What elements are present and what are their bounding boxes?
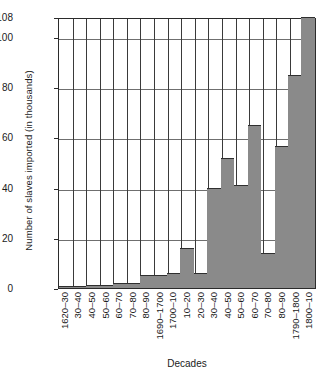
bar-70-80 (261, 253, 274, 288)
x-tick-label: 1690–1700 (155, 292, 165, 340)
x-axis-title: Decades (58, 358, 316, 369)
bar-cell (207, 19, 220, 288)
bar-cell (288, 19, 301, 288)
x-tick-label: 20–30 (196, 292, 206, 318)
x-tick-label: 40–50 (223, 292, 233, 318)
plot-area (58, 18, 316, 289)
bar-40-50 (86, 285, 99, 288)
bar-40-50 (221, 158, 234, 288)
bar-1790-1800 (288, 75, 301, 288)
bar-cell (99, 19, 112, 288)
bar-cell (261, 19, 274, 288)
bar-10-20 (180, 248, 193, 288)
x-tick-label: 70–80 (264, 292, 274, 318)
bar-80-90 (140, 275, 153, 288)
bar-cell (126, 19, 139, 288)
x-tick-label: 1700–10 (169, 292, 179, 329)
x-tick-label: 50–60 (237, 292, 247, 318)
x-tick-label: 80–90 (277, 292, 287, 318)
x-tick-label: 60–70 (114, 292, 124, 318)
bar-cell (140, 19, 153, 288)
y-tick-label-0: 0 (0, 284, 13, 294)
bar-cell (221, 19, 234, 288)
y-tick-label-20: 20 (0, 234, 13, 244)
bar-cell (86, 19, 99, 288)
bar-cell (275, 19, 288, 288)
x-tick-label: 60–70 (250, 292, 260, 318)
y-tick-label-80: 80 (0, 83, 13, 93)
bar-60-70 (113, 283, 126, 288)
bar-30-40 (72, 286, 85, 289)
bar-50-60 (99, 285, 112, 288)
x-tick-label: 70–80 (128, 292, 138, 318)
x-tick-label: 1790–1800 (291, 292, 301, 340)
bar-1700-10 (167, 273, 180, 288)
y-tick-mark-0 (54, 289, 58, 290)
bar-cell (180, 19, 193, 288)
bar-60-70 (248, 125, 261, 288)
y-tick-label-60: 60 (0, 133, 13, 143)
bar-cell (234, 19, 247, 288)
y-tick-label-40: 40 (0, 184, 13, 194)
bar-cell (113, 19, 126, 288)
slave-imports-bar-chart: Number of slaves imported (in thousands)… (0, 0, 333, 381)
x-tick-label: 80–90 (142, 292, 152, 318)
bar-80-90 (275, 146, 288, 288)
y-axis-title: Number of slaves imported (in thousands) (23, 41, 34, 281)
bar-50-60 (234, 185, 247, 288)
bar-1620-30 (59, 286, 72, 289)
x-tick-label: 1800–10 (304, 292, 314, 329)
bar-cell (59, 19, 72, 288)
bar-cell (72, 19, 85, 288)
bar-cell (248, 19, 261, 288)
y-tick-label-108: 108 (0, 13, 13, 23)
bar-1800-10 (301, 17, 314, 288)
bar-cell (301, 19, 314, 288)
x-tick-label: 1620–30 (60, 292, 70, 329)
bar-70-80 (126, 283, 139, 288)
bar-cell (153, 19, 166, 288)
x-tick-label: 40–50 (87, 292, 97, 318)
x-tick-label: 30–40 (209, 292, 219, 318)
y-tick-label-100: 100 (0, 33, 13, 43)
bar-cell (167, 19, 180, 288)
bar-20-30 (194, 273, 207, 288)
bar-30-40 (207, 188, 220, 288)
bar-series (59, 19, 315, 288)
bar-1690-1700 (153, 275, 166, 288)
x-tick-label: 30–40 (74, 292, 84, 318)
x-tick-label: 50–60 (101, 292, 111, 318)
x-tick-label: 10–20 (182, 292, 192, 318)
bar-cell (194, 19, 207, 288)
